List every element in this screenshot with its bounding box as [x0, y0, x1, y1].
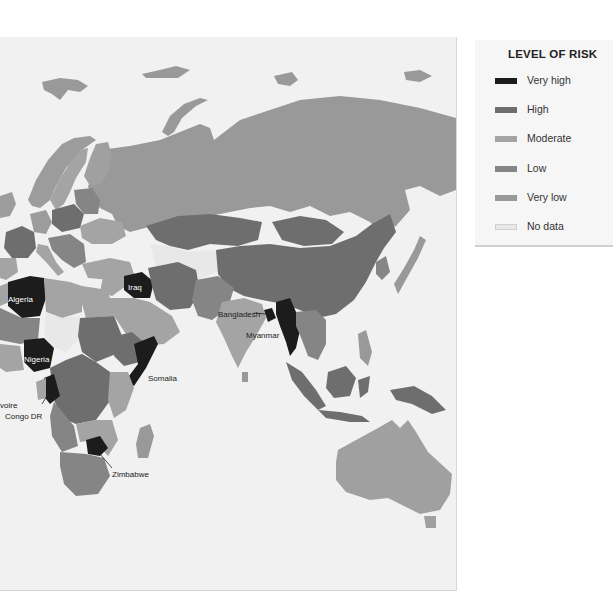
sri-lanka [242, 372, 248, 382]
legend-item-high: High [475, 103, 613, 117]
legend-item-moderate: Moderate [475, 132, 613, 146]
map-shapes [0, 0, 456, 590]
legend-label: High [527, 103, 549, 115]
new-guinea [390, 386, 446, 414]
label-algeria: Algeria [8, 295, 33, 304]
label-iraq: Iraq [128, 283, 142, 292]
bangladesh [264, 308, 276, 322]
madagascar [136, 424, 154, 458]
legend-label: Low [527, 162, 546, 174]
australia [336, 420, 452, 514]
label-congo-dr: Congo DR [5, 412, 42, 421]
sulawesi [358, 376, 370, 398]
java [318, 410, 370, 422]
legend-item-no-data: No data [475, 220, 613, 234]
legend-item-very-low: Very low [475, 191, 613, 205]
label-cote-divoire: voire [0, 401, 17, 410]
franz-josef-land [142, 66, 190, 78]
swatch-no-data [495, 224, 517, 230]
mongolia [272, 216, 344, 246]
sumatra [286, 362, 326, 410]
swatch-moderate [495, 136, 517, 142]
severnaya-zemlya [274, 72, 298, 86]
germany [30, 210, 52, 234]
label-somalia: Somalia [148, 374, 177, 383]
legend-label: Moderate [527, 132, 571, 144]
swatch-low [495, 166, 517, 172]
southern-africa [60, 452, 110, 496]
label-nigeria: Nigeria [24, 355, 49, 364]
label-myanmar: Myanmar [246, 331, 279, 340]
svalbard [42, 78, 88, 100]
swatch-high [495, 107, 517, 113]
ukraine [80, 218, 126, 244]
japan [394, 236, 426, 294]
label-zimbabwe: Zimbabwe [112, 470, 149, 479]
new-siberian-islands [404, 70, 432, 82]
iberia [0, 258, 18, 280]
west-coast [0, 344, 24, 372]
korea [376, 256, 390, 280]
thailand-indochina [296, 310, 326, 360]
legend: LEVEL OF RISK Very high High Moderate Lo… [475, 40, 613, 247]
swatch-very-low [495, 195, 517, 201]
libya [44, 278, 82, 318]
legend-label: No data [527, 220, 564, 232]
legend-item-low: Low [475, 162, 613, 176]
legend-title: LEVEL OF RISK [508, 48, 597, 60]
russia [88, 96, 456, 232]
swatch-very-high [495, 78, 517, 84]
borneo [326, 366, 356, 398]
legend-item-very-high: Very high [475, 74, 613, 88]
iran [148, 262, 200, 310]
label-bangladesh: Bangladesh [218, 310, 260, 319]
uk [0, 192, 16, 218]
east-africa [108, 372, 134, 418]
france [4, 226, 36, 258]
legend-label: Very high [527, 74, 571, 86]
gabon-congo [36, 378, 46, 400]
tasmania [424, 516, 436, 528]
legend-label: Very low [527, 191, 567, 203]
philippines [358, 330, 372, 366]
risk-map: Algeria Iraq Nigeria Somalia voire Congo… [0, 37, 457, 591]
